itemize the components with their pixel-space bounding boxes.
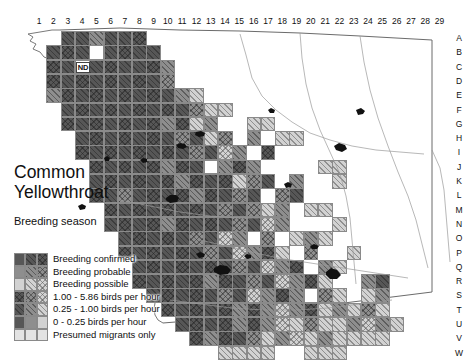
row-label: I bbox=[452, 145, 466, 159]
atlas-cell bbox=[104, 217, 119, 232]
atlas-cell bbox=[218, 274, 233, 289]
atlas-cell bbox=[304, 346, 319, 361]
row-label: U bbox=[452, 317, 466, 331]
atlas-cell bbox=[332, 260, 347, 275]
atlas-cell bbox=[89, 103, 104, 118]
legend-swatch bbox=[37, 291, 48, 304]
atlas-cell bbox=[247, 303, 262, 318]
legend-swatch bbox=[14, 329, 25, 342]
atlas-cell bbox=[146, 74, 161, 89]
atlas-cell bbox=[132, 60, 147, 75]
atlas-cell bbox=[247, 231, 262, 246]
atlas-cell bbox=[189, 331, 204, 346]
atlas-cell bbox=[289, 260, 304, 275]
atlas-cell bbox=[132, 188, 147, 203]
atlas-cell bbox=[218, 331, 233, 346]
atlas-cell bbox=[104, 31, 119, 46]
legend-swatch bbox=[37, 316, 48, 329]
atlas-cell bbox=[247, 274, 262, 289]
atlas-cell bbox=[175, 174, 190, 189]
atlas-cell bbox=[304, 303, 319, 318]
atlas-cell bbox=[161, 288, 176, 303]
atlas-cell bbox=[275, 274, 290, 289]
atlas-cell bbox=[132, 160, 147, 175]
atlas-cell bbox=[289, 317, 304, 332]
atlas-cell bbox=[247, 288, 262, 303]
atlas-cell bbox=[175, 103, 190, 118]
atlas-cell bbox=[46, 88, 61, 103]
atlas-cell bbox=[118, 231, 133, 246]
atlas-cell bbox=[161, 274, 176, 289]
atlas-cell bbox=[232, 160, 247, 175]
atlas-cell bbox=[204, 317, 219, 332]
atlas-cell bbox=[118, 31, 133, 46]
atlas-cell bbox=[161, 88, 176, 103]
atlas-cell bbox=[204, 288, 219, 303]
legend-row: Presumed migrants only bbox=[14, 329, 160, 342]
atlas-cell bbox=[232, 145, 247, 160]
atlas-cell bbox=[232, 331, 247, 346]
legend-swatch bbox=[37, 329, 48, 342]
row-label: P bbox=[452, 246, 466, 260]
atlas-cell bbox=[304, 288, 319, 303]
row-label: N bbox=[452, 217, 466, 231]
legend-swatch bbox=[37, 266, 48, 279]
row-label: M bbox=[452, 203, 466, 217]
atlas-cell bbox=[89, 74, 104, 89]
atlas-cell bbox=[75, 117, 90, 132]
atlas-cell bbox=[175, 303, 190, 318]
atlas-cell bbox=[275, 188, 290, 203]
row-label: E bbox=[452, 88, 466, 102]
atlas-cell bbox=[375, 274, 390, 289]
atlas-cell bbox=[204, 117, 219, 132]
atlas-cell bbox=[232, 217, 247, 232]
atlas-cell bbox=[189, 174, 204, 189]
atlas-cell bbox=[161, 103, 176, 118]
atlas-cell bbox=[175, 117, 190, 132]
atlas-cell bbox=[175, 145, 190, 160]
atlas-cell bbox=[132, 88, 147, 103]
atlas-cell bbox=[361, 303, 376, 318]
legend-label: Breeding probable bbox=[53, 266, 131, 279]
season-subtitle: Breeding season bbox=[14, 215, 97, 228]
atlas-cell bbox=[332, 317, 347, 332]
atlas-cell bbox=[132, 131, 147, 146]
legend-row: Breeding possible bbox=[14, 278, 160, 291]
atlas-cell bbox=[204, 331, 219, 346]
atlas-cell bbox=[132, 217, 147, 232]
atlas-cell bbox=[118, 174, 133, 189]
atlas-cell bbox=[318, 231, 333, 246]
atlas-cell bbox=[132, 231, 147, 246]
atlas-cell bbox=[104, 45, 119, 60]
atlas-cell bbox=[375, 288, 390, 303]
atlas-cell bbox=[361, 288, 376, 303]
atlas-cell bbox=[347, 246, 362, 261]
atlas-cell bbox=[232, 203, 247, 218]
atlas-cell bbox=[146, 203, 161, 218]
atlas-cell bbox=[247, 260, 262, 275]
atlas-cell bbox=[332, 160, 347, 175]
legend-swatch bbox=[25, 266, 36, 279]
atlas-cell bbox=[204, 103, 219, 118]
atlas-cell bbox=[46, 45, 61, 60]
atlas-cell bbox=[175, 274, 190, 289]
atlas-cell bbox=[104, 88, 119, 103]
atlas-cell bbox=[61, 74, 76, 89]
atlas-cell bbox=[104, 117, 119, 132]
legend-swatch bbox=[37, 278, 48, 291]
atlas-cell bbox=[118, 74, 133, 89]
atlas-cell bbox=[304, 317, 319, 332]
atlas-cell bbox=[247, 203, 262, 218]
legend-swatch-group bbox=[14, 253, 48, 266]
atlas-cell bbox=[347, 317, 362, 332]
atlas-cell bbox=[132, 31, 147, 46]
legend-swatch bbox=[37, 303, 48, 316]
atlas-cell bbox=[218, 288, 233, 303]
atlas-cell bbox=[75, 145, 90, 160]
atlas-cell bbox=[61, 103, 76, 118]
atlas-cell bbox=[204, 145, 219, 160]
atlas-cell bbox=[132, 174, 147, 189]
atlas-cell bbox=[247, 331, 262, 346]
legend-swatch-group bbox=[14, 329, 48, 342]
atlas-cell bbox=[204, 203, 219, 218]
